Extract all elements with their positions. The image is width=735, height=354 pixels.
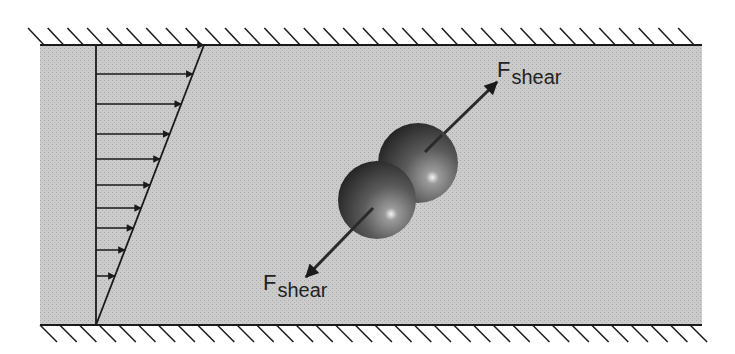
force-symbol: F: [497, 57, 510, 82]
sphere-lower: [338, 161, 416, 239]
shear-flow-diagram: [0, 0, 735, 354]
force-label-top: Fshear: [497, 57, 561, 83]
top-wall: [28, 28, 702, 45]
bottom-wall: [40, 325, 707, 342]
force-label-bottom: Fshear: [263, 270, 327, 296]
force-symbol: F: [263, 270, 276, 295]
force-subscript: shear: [277, 279, 327, 301]
force-subscript: shear: [511, 66, 561, 88]
